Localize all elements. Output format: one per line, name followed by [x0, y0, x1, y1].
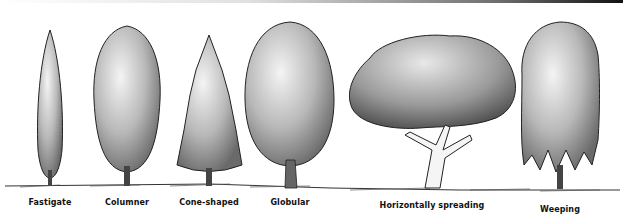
tree-cone-shaped — [177, 35, 242, 186]
tree-globular — [245, 22, 334, 188]
tree-forms-illustration — [0, 0, 623, 224]
tree-weeping — [522, 22, 600, 189]
label-horizontally-spreading: Horizontally spreading — [380, 201, 485, 210]
tree-columner — [94, 26, 160, 186]
ground-line — [5, 184, 620, 191]
label-cone-shaped: Cone-shaped — [179, 198, 239, 207]
label-weeping: Weeping — [540, 205, 580, 214]
label-columner: Columner — [105, 198, 149, 207]
tree-horizontally-spreading — [349, 35, 515, 188]
tree-fastigate — [38, 30, 63, 186]
label-fastigate: Fastigate — [29, 198, 72, 207]
label-globular: Globular — [270, 198, 309, 207]
